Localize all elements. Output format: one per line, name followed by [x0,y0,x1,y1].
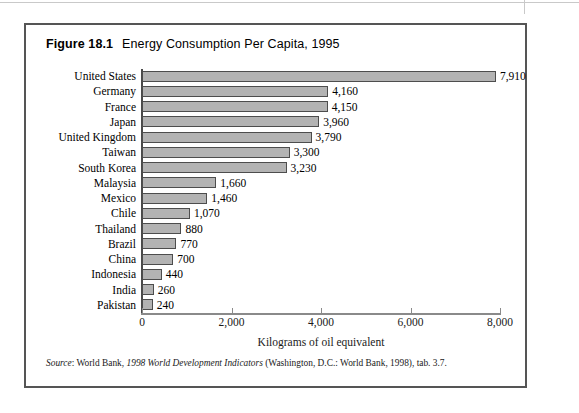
category-label: United Kingdom [26,130,136,145]
x-tick-label: 6,000 [398,316,424,328]
bar-row: Indonesia440 [26,267,529,282]
bar-value-label: 7,910 [500,69,526,84]
category-label: France [26,100,136,115]
category-label: Brazil [26,237,136,252]
bar-chart-plot: United States7,910Germany4,160France4,15… [26,25,529,390]
bar-row: Brazil770 [26,237,529,252]
source-note: Source: World Bank, 1998 World Developme… [46,358,447,368]
x-tick-label: 8,000 [487,316,513,328]
category-label: United States [26,69,136,84]
bar-value-label: 3,960 [323,115,349,130]
bar [142,269,162,280]
category-label: Indonesia [26,267,136,282]
bar-value-label: 880 [185,222,202,237]
bar [142,208,190,219]
category-label: Chile [26,206,136,221]
bar-value-label: 700 [177,252,194,267]
bar [142,193,207,204]
bar-value-label: 4,150 [332,100,358,115]
figure-container: Figure 18.1Energy Consumption Per Capita… [24,23,527,388]
bar [142,147,290,158]
bar [142,299,153,310]
bar-row: Chile1,070 [26,206,529,221]
category-label: Pakistan [26,298,136,313]
bar-row: South Korea3,230 [26,161,529,176]
bar-row: Mexico1,460 [26,191,529,206]
bar-value-label: 240 [157,298,174,313]
x-tick [232,308,233,313]
source-publication-title: 1998 World Development Indicators [127,358,263,368]
bar-value-label: 1,460 [211,191,237,206]
bar [142,223,181,234]
bar [142,238,176,249]
bar [142,116,319,127]
bar [142,132,312,143]
bar-row: China700 [26,252,529,267]
bar-row: Pakistan240 [26,298,529,313]
x-tick [500,308,501,313]
category-label: Malaysia [26,176,136,191]
x-axis-line [141,313,501,315]
category-label: Taiwan [26,145,136,160]
bar-value-label: 1,660 [220,176,246,191]
bar-value-label: 770 [180,237,197,252]
bar-row: France4,150 [26,100,529,115]
bar [142,71,496,82]
source-label: Source [46,358,72,368]
category-label: Thailand [26,222,136,237]
bar-row: United States7,910 [26,69,529,84]
x-axis-label: Kilograms of oil equivalent [141,336,501,348]
x-tick [142,308,143,313]
bar [142,101,328,112]
bar-row: Taiwan3,300 [26,145,529,160]
source-tail: (Washington, D.C.: World Bank, 1998), ta… [263,358,447,368]
bar [142,284,154,295]
bar-value-label: 440 [166,267,183,282]
bar [142,254,173,265]
bar-row: India260 [26,283,529,298]
x-tick-label: 4,000 [308,316,334,328]
category-label: China [26,252,136,267]
bar [142,177,216,188]
bar-value-label: 4,160 [332,84,358,99]
bar-row: Malaysia1,660 [26,176,529,191]
category-label: Germany [26,84,136,99]
category-label: South Korea [26,161,136,176]
x-tick-label: 2,000 [219,316,245,328]
bar [142,162,287,173]
bar [142,86,328,97]
x-tick-label: 0 [139,316,145,328]
bar-value-label: 1,070 [194,206,220,221]
bar-row: Germany4,160 [26,84,529,99]
bar-value-label: 3,790 [316,130,342,145]
source-colon: : World Bank, [72,358,127,368]
bar-value-label: 260 [158,283,175,298]
bar-value-label: 3,300 [294,145,320,160]
category-label: Mexico [26,191,136,206]
bar-row: United Kingdom3,790 [26,130,529,145]
bar-value-label: 3,230 [291,161,317,176]
x-tick [321,308,322,313]
page-top-rule [0,2,579,3]
page-top-rule-tick [524,0,525,14]
bar-row: Japan3,960 [26,115,529,130]
category-label: Japan [26,115,136,130]
x-tick [411,308,412,313]
category-label: India [26,283,136,298]
bar-row: Thailand880 [26,222,529,237]
